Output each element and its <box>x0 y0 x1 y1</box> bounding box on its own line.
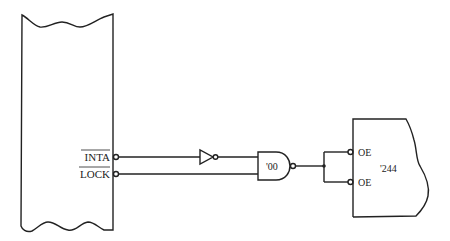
inta-bubble <box>114 155 119 160</box>
inverter-gate <box>200 150 213 164</box>
lock-bubble <box>114 172 119 177</box>
nand-label: '00 <box>266 161 278 172</box>
oe2-bubble <box>348 180 353 185</box>
chip-244-label: '244 <box>380 163 397 174</box>
left-block <box>21 14 113 232</box>
oe1-label: OE <box>358 147 371 158</box>
junction-dot <box>322 164 326 168</box>
inta-label: INTA <box>85 151 110 163</box>
circuit-diagram: INTA LOCK '00 OE OE '244 <box>0 0 450 241</box>
nand-bubble <box>291 164 296 169</box>
lock-label: LOCK <box>80 168 110 180</box>
oe2-label: OE <box>358 177 371 188</box>
inverter-bubble <box>213 155 218 160</box>
oe1-bubble <box>348 150 353 155</box>
